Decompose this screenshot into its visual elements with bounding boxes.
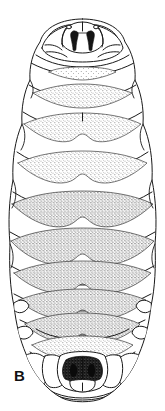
larva-body <box>9 19 156 402</box>
antennal-papilla-right <box>94 25 99 29</box>
larva-illustration <box>0 0 165 411</box>
figure-panel: B <box>0 0 165 411</box>
antennal-papilla-left <box>67 25 72 29</box>
panel-label: B <box>14 368 25 383</box>
